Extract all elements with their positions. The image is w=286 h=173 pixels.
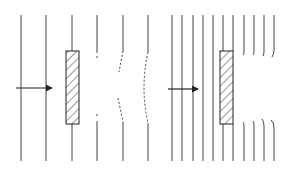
- obstacle-left: [66, 51, 79, 124]
- wavefront-line: [271, 120, 274, 161]
- wavefront-line: [263, 15, 264, 56]
- wavefront-line-dashed: [119, 51, 123, 72]
- wavefront-line: [243, 122, 244, 161]
- obstacle-right: [220, 51, 233, 124]
- wavefront-line: [272, 15, 274, 57]
- wavefront-line: [253, 121, 254, 161]
- wavefront-line: [243, 15, 244, 55]
- wavefront-line-dashed: [118, 98, 123, 122]
- diffraction-diagram: [0, 0, 286, 173]
- wavefront-line: [253, 15, 254, 55]
- wavefront-line: [262, 119, 264, 161]
- wavefront-line-dashed: [144, 52, 148, 123]
